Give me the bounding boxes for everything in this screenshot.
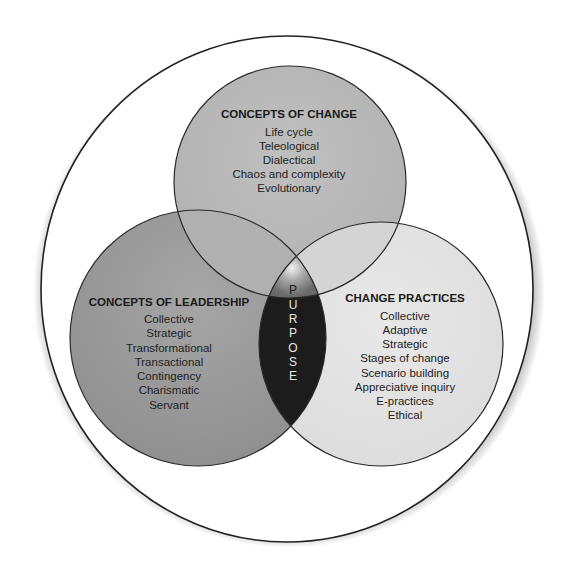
practices-item: Collective (380, 310, 430, 322)
practices-item: Scenario building (361, 367, 449, 379)
practices-item: Adaptive (383, 324, 428, 336)
leadership-item: Contingency (137, 370, 201, 382)
practices-item: Stages of change (360, 352, 450, 364)
purpose-label: P U R P O S E (288, 283, 297, 383)
purpose-letter: S (289, 355, 297, 369)
purpose-letter: E (289, 369, 297, 383)
concepts-of-change-title: CONCEPTS OF CHANGE (221, 108, 357, 120)
venn-diagram: CONCEPTS OF CHANGE Life cycle Teleologic… (0, 0, 564, 579)
practices-item: E-practices (376, 395, 434, 407)
practices-item: Ethical (388, 409, 423, 421)
leadership-item: Strategic (146, 327, 192, 339)
leadership-item: Transactional (135, 356, 204, 368)
purpose-letter: P (289, 326, 297, 340)
practices-item: Appreciative inquiry (355, 381, 456, 393)
change-practices-title: CHANGE PRACTICES (345, 292, 465, 304)
change-item: Evolutionary (257, 182, 321, 194)
purpose-letter: P (289, 283, 297, 297)
change-item: Life cycle (265, 126, 313, 138)
change-item: Dialectical (263, 154, 315, 166)
practices-item: Strategic (382, 338, 428, 350)
leadership-item: Charismatic (139, 384, 200, 396)
leadership-item: Transformational (126, 342, 212, 354)
change-item: Chaos and complexity (232, 168, 345, 180)
concepts-of-leadership-title: CONCEPTS OF LEADERSHIP (89, 296, 250, 308)
change-item: Teleological (259, 140, 319, 152)
leadership-item: Servant (149, 399, 189, 411)
leadership-item: Collective (144, 313, 194, 325)
purpose-letter: U (289, 298, 298, 312)
purpose-letter: R (289, 312, 298, 326)
purpose-letter: O (288, 341, 297, 355)
